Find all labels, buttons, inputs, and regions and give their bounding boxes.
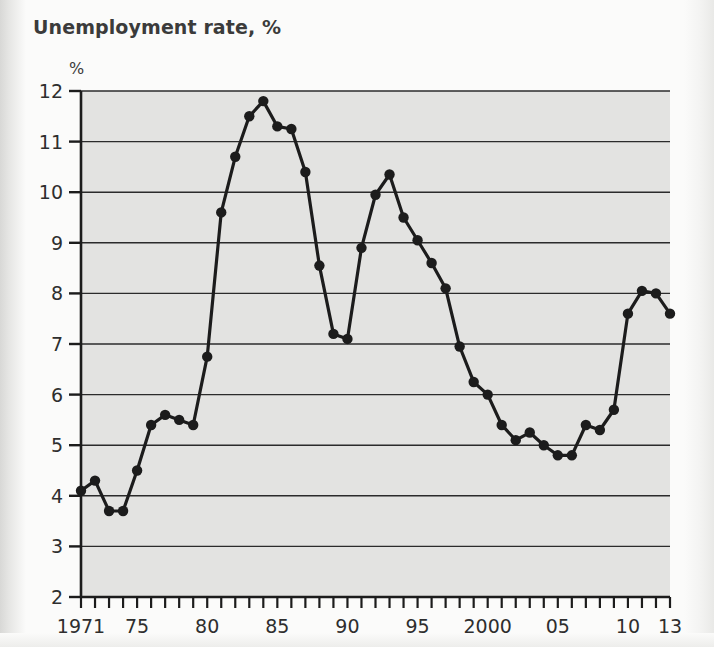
x-tick-label: 75 <box>125 615 149 637</box>
data-point <box>174 415 184 425</box>
y-tick-label: 7 <box>51 333 63 355</box>
y-axis-unit-label: % <box>69 59 84 78</box>
unemployment-rate-line-chart: 23456789101112 197175808590952000051013 … <box>0 0 714 647</box>
data-point <box>384 169 394 179</box>
data-point <box>623 308 633 318</box>
data-point <box>300 167 310 177</box>
data-point <box>651 288 661 298</box>
y-tick-label: 9 <box>51 232 63 254</box>
data-point <box>356 243 366 253</box>
data-point <box>525 427 535 437</box>
y-tick-label: 8 <box>51 282 63 304</box>
data-point <box>286 124 296 134</box>
data-point <box>272 121 282 131</box>
y-unit-text: % <box>69 59 84 78</box>
data-point <box>342 334 352 344</box>
data-point <box>426 258 436 268</box>
data-point <box>539 440 549 450</box>
y-tick-label: 12 <box>39 80 63 102</box>
x-tick-label: 1971 <box>57 615 105 637</box>
x-tick-label: 10 <box>616 615 640 637</box>
data-point <box>202 351 212 361</box>
data-point <box>370 190 380 200</box>
x-tick-label: 13 <box>658 615 682 637</box>
data-point <box>468 377 478 387</box>
data-point <box>314 260 324 270</box>
x-tick-label: 80 <box>195 615 219 637</box>
data-point <box>637 286 647 296</box>
data-point <box>188 420 198 430</box>
x-tick-label: 2000 <box>464 615 512 637</box>
x-tick-label: 90 <box>335 615 359 637</box>
data-point <box>230 152 240 162</box>
y-tick-label: 5 <box>51 434 63 456</box>
x-tick-label: 95 <box>405 615 429 637</box>
x-tick-label: 05 <box>546 615 570 637</box>
data-point <box>412 235 422 245</box>
y-tick-label: 11 <box>39 131 63 153</box>
y-axis <box>69 91 81 597</box>
data-point <box>454 341 464 351</box>
data-point <box>398 212 408 222</box>
data-point <box>497 420 507 430</box>
x-tick-labels: 197175808590952000051013 <box>57 615 682 637</box>
data-point <box>132 465 142 475</box>
data-point <box>258 96 268 106</box>
data-point <box>440 283 450 293</box>
data-point <box>482 389 492 399</box>
data-point <box>609 405 619 415</box>
data-point <box>146 420 156 430</box>
y-tick-label: 3 <box>51 535 63 557</box>
y-tick-label: 6 <box>51 384 63 406</box>
y-tick-label: 4 <box>51 485 63 507</box>
y-tick-label: 2 <box>51 586 63 608</box>
data-point <box>118 506 128 516</box>
data-point <box>90 475 100 485</box>
data-point <box>567 450 577 460</box>
data-point <box>581 420 591 430</box>
data-point <box>553 450 563 460</box>
data-point <box>328 329 338 339</box>
data-point <box>244 111 254 121</box>
data-point <box>511 435 521 445</box>
y-tick-labels: 23456789101112 <box>39 80 63 608</box>
x-axis <box>81 597 670 608</box>
y-tick-label: 10 <box>39 181 63 203</box>
data-point <box>160 410 170 420</box>
data-point <box>216 207 226 217</box>
x-tick-label: 85 <box>265 615 289 637</box>
data-point <box>76 486 86 496</box>
data-point <box>665 308 675 318</box>
data-point <box>595 425 605 435</box>
data-point <box>104 506 114 516</box>
